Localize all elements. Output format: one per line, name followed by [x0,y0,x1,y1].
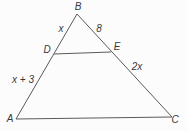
side-label-bd: x [59,24,64,34]
triangle-figure [0,0,188,131]
vertex-label-e: E [114,42,121,52]
segment-de [54,52,111,54]
side-label-ad: x + 3 [12,75,34,85]
vertex-label-b: B [75,2,82,12]
vertex-label-a: A [7,114,14,124]
vertex-label-c: C [171,115,178,125]
vertex-label-d: D [43,45,50,55]
side-label-be: 8 [96,24,102,34]
side-label-ec: 2x [132,62,143,72]
triangle-outline [16,14,172,119]
geometry-diagram: B x 8 D E x + 3 2x A C [0,0,188,131]
